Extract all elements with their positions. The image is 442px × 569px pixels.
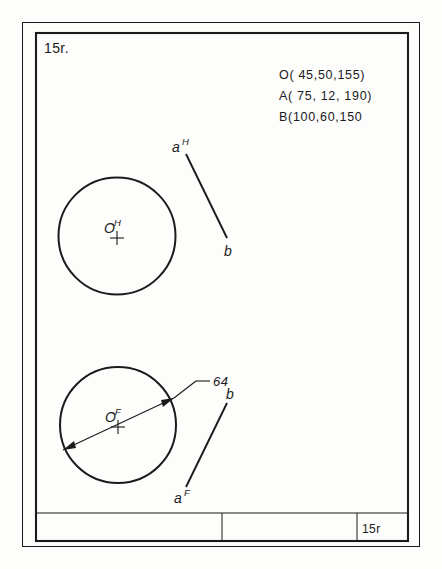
top-view-segment-start-label: a xyxy=(172,139,180,155)
top-view-segment-start-superscript: H xyxy=(182,136,189,147)
title-block-sheet-number: 15r xyxy=(362,522,381,536)
dimension-leader-line xyxy=(174,381,196,398)
front-view-segment xyxy=(186,403,227,487)
front-view-segment-end-label: b xyxy=(226,386,234,402)
top-view-center-superscript: H xyxy=(114,217,121,228)
top-view-segment xyxy=(186,154,227,238)
top-view-segment-end-label: b xyxy=(224,243,232,259)
front-view-segment-start-label: a xyxy=(174,490,182,506)
drawing-sheet: 15r. O( 45,50,155) A( 75, 12, 190) B(100… xyxy=(0,0,442,569)
dimension-arrowhead-start xyxy=(63,441,76,450)
coordinate-line-o: O( 45,50,155) xyxy=(279,68,365,82)
coordinate-line-a: A( 75, 12, 190) xyxy=(279,89,372,103)
sheet-number: 15r. xyxy=(44,40,69,56)
technical-drawing-canvas: 15r. O( 45,50,155) A( 75, 12, 190) B(100… xyxy=(0,0,442,569)
front-view-segment-start-superscript: F xyxy=(184,487,191,498)
front-view-center-superscript: F xyxy=(115,406,122,417)
coordinate-line-b: B(100,60,150 xyxy=(279,110,362,124)
